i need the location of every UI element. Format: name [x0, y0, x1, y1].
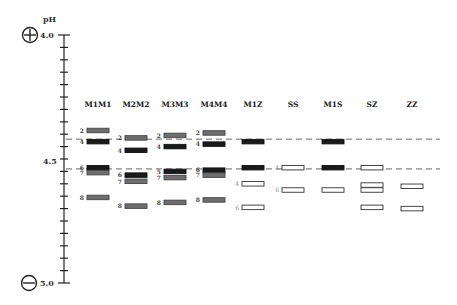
- plus-circle-icon: [23, 28, 38, 43]
- isoelectric-focusing-diagram: pH 4.0 5.0 4.5 M1M124678M2M224678M3M3245…: [0, 0, 457, 305]
- minus-circle-icon: [22, 276, 37, 291]
- band-black: [203, 168, 225, 173]
- band-open: [361, 183, 383, 188]
- band-label: 4: [275, 164, 279, 171]
- band-black: [125, 148, 147, 153]
- band-label: 2: [196, 129, 200, 136]
- band-label: 4: [196, 140, 200, 147]
- band-label: 2: [157, 132, 161, 139]
- lane-label: ZZ: [407, 100, 418, 109]
- band-open: [322, 188, 344, 193]
- band-black: [203, 142, 225, 147]
- band-label: 7: [118, 178, 122, 185]
- band-open: [361, 188, 383, 193]
- band-black: [87, 139, 109, 144]
- lane-label: SZ: [367, 100, 378, 109]
- band-black: [242, 165, 264, 170]
- axis-bottom-label: 5.0: [40, 278, 54, 288]
- lane-zz: ZZ: [401, 100, 423, 211]
- band-gray: [203, 173, 225, 178]
- lane-label: M2M2: [122, 100, 149, 109]
- band-open: [282, 165, 304, 170]
- band-open: [401, 206, 423, 211]
- band-label: 8: [118, 202, 122, 209]
- band-gray: [164, 133, 186, 138]
- band-black: [322, 165, 344, 170]
- band-black: [125, 173, 147, 178]
- band-open: [282, 188, 304, 193]
- lane-m2m2: M2M224678: [118, 100, 150, 209]
- band-label: 2: [118, 134, 122, 141]
- band-black: [242, 139, 264, 144]
- band-open: [401, 184, 423, 189]
- band-gray: [203, 198, 225, 203]
- band-black: [164, 144, 186, 149]
- band-label: 4: [118, 147, 122, 154]
- band-gray: [164, 200, 186, 205]
- band-open: [361, 205, 383, 210]
- band-label: 8: [196, 196, 200, 203]
- lane-label: SS: [288, 100, 299, 109]
- band-label: 4: [80, 138, 84, 145]
- band-label: 7: [157, 174, 161, 181]
- lane-ss: SS46: [275, 100, 304, 193]
- band-label: 6: [235, 204, 239, 211]
- band-gray: [125, 136, 147, 141]
- band-black: [87, 165, 109, 170]
- band-label: 8: [157, 199, 161, 206]
- band-label: 2: [80, 127, 84, 134]
- band-black: [322, 139, 344, 144]
- band-gray: [87, 170, 109, 175]
- lane-m4m4: M4M424678: [196, 100, 228, 203]
- band-label: 4: [157, 143, 161, 150]
- band-label: 4: [235, 180, 239, 187]
- axis-mid-label: 4.5: [43, 156, 57, 166]
- band-label: 7: [80, 169, 84, 176]
- lane-label: M1S: [324, 100, 343, 109]
- band-gray: [87, 195, 109, 200]
- band-open: [361, 165, 383, 170]
- lane-label: M4M4: [200, 100, 227, 109]
- band-open: [242, 205, 264, 210]
- band-label: 6: [275, 186, 279, 193]
- band-gray: [125, 179, 147, 184]
- lane-m1m1: M1M124678: [80, 100, 112, 201]
- lane-m3m3: M3M324578: [157, 100, 189, 206]
- band-label: 7: [196, 171, 200, 178]
- axis-title: pH: [43, 14, 57, 24]
- band-black: [164, 169, 186, 174]
- band-gray: [203, 131, 225, 136]
- lane-m1s: M1S: [322, 100, 344, 192]
- band-label: 8: [80, 194, 84, 201]
- columns: M1M124678M2M224678M3M324578M4M424678M1Z4…: [80, 100, 423, 211]
- lane-sz: SZ: [361, 100, 383, 210]
- axis-ticks: [58, 35, 70, 283]
- lane-label: M3M3: [161, 100, 188, 109]
- lane-m1z: M1Z46: [235, 100, 264, 211]
- band-open: [242, 182, 264, 187]
- band-gray: [164, 175, 186, 180]
- band-gray: [125, 204, 147, 209]
- lane-label: M1M1: [84, 100, 111, 109]
- lane-label: M1Z: [244, 100, 264, 109]
- band-gray: [87, 128, 109, 133]
- axis-top-label: 4.0: [40, 30, 54, 40]
